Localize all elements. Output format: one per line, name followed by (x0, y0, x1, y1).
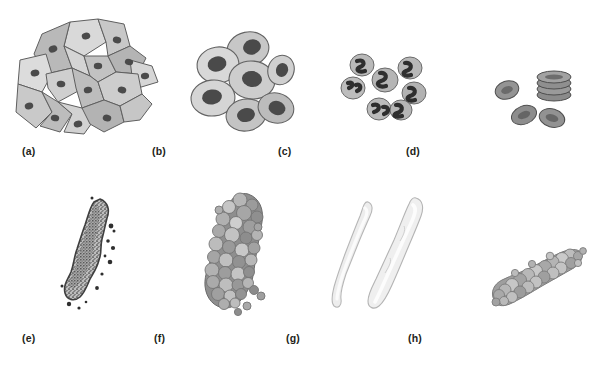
panel-h-caption: (h) (408, 332, 422, 344)
rbc-rouleaux-stack (537, 71, 571, 101)
figure-plate: (a) (b) (0, 0, 612, 371)
panel-g (332, 196, 432, 318)
hyaline-casts-illustration (332, 196, 432, 318)
panel-e (56, 196, 136, 314)
panel-h (484, 242, 588, 318)
panel-g-caption: (g) (286, 332, 300, 344)
panel-b-caption: (b) (152, 145, 166, 157)
hyaline-cast-left (332, 202, 372, 307)
panel-f (192, 190, 288, 316)
panel-a-caption: (a) (22, 145, 35, 157)
panel-f-caption: (f) (154, 332, 165, 344)
panel-e-caption: (e) (22, 332, 35, 344)
transitional-epithelial-cells-illustration (186, 30, 298, 138)
white-blood-cells-illustration (340, 52, 434, 128)
cellular-cast-illustration (484, 242, 588, 318)
panel-a (12, 16, 162, 138)
fine-granular-cast-illustration (56, 196, 136, 314)
panel-c (340, 52, 434, 128)
cast-cells-group-h (492, 248, 586, 306)
panel-d-caption: (d) (406, 145, 420, 157)
squamous-epithelial-cells-illustration (12, 16, 162, 138)
coarse-granular-cast-illustration (192, 190, 288, 316)
red-blood-cells-illustration (492, 62, 580, 132)
panel-c-caption: (c) (278, 145, 291, 157)
hyaline-cast-right (368, 198, 423, 308)
panel-b (186, 30, 298, 138)
panel-d (492, 62, 580, 132)
